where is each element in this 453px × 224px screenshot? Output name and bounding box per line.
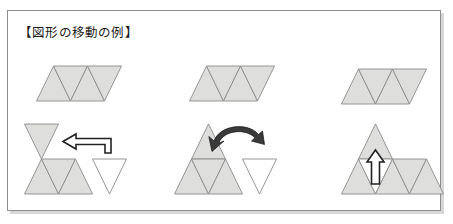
translation-arrow-icon: [63, 134, 111, 153]
triangle-ghost-down: [93, 159, 127, 194]
triangle-ghost-down: [243, 159, 277, 194]
triangle-moved-down: [25, 124, 59, 159]
figure-top-left-parallelogram: [37, 66, 122, 101]
figure-top-right-parallelogram: [342, 69, 427, 104]
worksheet-canvas: 【図形の移動の例】: [0, 0, 453, 224]
figure-bottom-middle-rotation: [175, 124, 277, 194]
figure-bottom-right-reflection: [342, 124, 444, 194]
figure-bottom-left-translation: [25, 124, 127, 194]
triangle-top-up: [192, 124, 226, 159]
page-title: 【図形の移動の例】: [19, 25, 138, 40]
figure-top-middle-parallelogram: [190, 66, 275, 101]
